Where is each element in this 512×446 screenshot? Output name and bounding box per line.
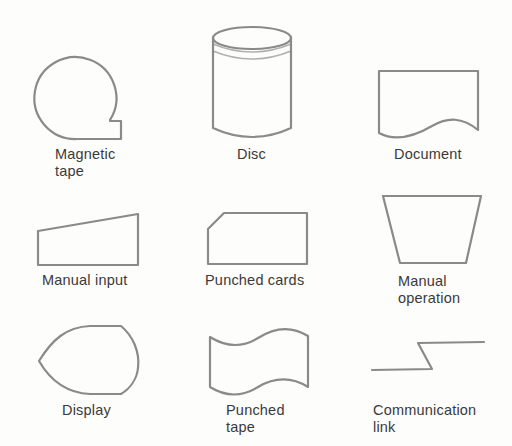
disc-symbol: [213, 27, 291, 137]
communication-link-symbol: [372, 342, 484, 370]
manual-operation-label-line1: Manual: [398, 273, 460, 290]
punched-cards-symbol: [208, 213, 307, 264]
punched-tape-symbol: [210, 329, 308, 394]
magnetic-tape-symbol: [34, 57, 121, 139]
document-label-line1: Document: [394, 146, 462, 163]
flowchart-symbols-diagram: Magnetic tape Disc Document Manual input…: [0, 0, 512, 446]
manual-operation-label-line2: operation: [398, 290, 460, 307]
manual-input-label: Manual input: [42, 272, 127, 289]
manual-input-symbol: [38, 214, 138, 265]
disc-label-line1: Disc: [237, 146, 266, 163]
punched-tape-label-line1: Punched: [226, 402, 285, 419]
communication-link-label-line2: link: [373, 419, 476, 436]
magnetic-tape-label: Magnetic tape: [55, 146, 115, 180]
disc-label: Disc: [237, 146, 266, 163]
display-label: Display: [62, 402, 111, 419]
display-label-line1: Display: [62, 402, 111, 419]
display-symbol: [39, 326, 138, 394]
document-label: Document: [394, 146, 462, 163]
magnetic-tape-label-line1: Magnetic: [55, 146, 115, 163]
communication-link-label-line1: Communication: [373, 402, 476, 419]
communication-link-label: Communication link: [373, 402, 476, 436]
punched-tape-label: Punched tape: [226, 402, 285, 436]
manual-input-label-line1: Manual input: [42, 272, 127, 289]
document-symbol: [379, 71, 478, 137]
punched-cards-label-line1: Punched cards: [205, 272, 304, 289]
manual-operation-label: Manual operation: [398, 273, 460, 307]
symbol-shapes: [0, 0, 512, 446]
magnetic-tape-label-line2: tape: [55, 163, 115, 180]
punched-tape-label-line2: tape: [226, 419, 285, 436]
manual-operation-symbol: [383, 196, 481, 263]
punched-cards-label: Punched cards: [205, 272, 304, 289]
